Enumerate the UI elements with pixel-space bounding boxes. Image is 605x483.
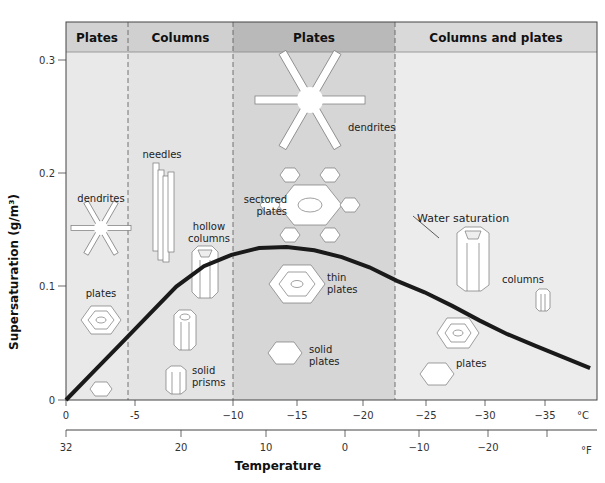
x-tick-label-f: −20 [477,442,498,453]
x-tick-label-f: 32 [60,442,73,453]
label-solid: solid [192,365,215,376]
x-tick-label-c: −20 [352,410,373,421]
hollow-column-icon [457,227,489,291]
label-prisms: prisms [192,377,225,388]
y-axis: 00.10.20.3 [39,55,66,406]
needle-icon [153,163,174,262]
column-icon [174,310,196,350]
x-tick-label-c: −25 [415,410,436,421]
label-columns-right: columns [502,274,544,285]
region-header-label: Columns [152,31,210,45]
label-hollow: hollow [193,221,225,232]
snow-crystal-diagram: PlatesColumnsPlatesColumns and plates 00… [0,0,605,483]
region-header-label: Plates [293,31,335,45]
x-tick-label-c: −15 [286,410,307,421]
x-tick-label-f: 10 [260,442,273,453]
label-thin: thin [327,272,346,283]
label-solid-plates-1: solid [309,344,332,355]
x-tick-label-f: −10 [408,442,429,453]
label-plates: plates [86,288,117,299]
y-tick-label: 0.3 [39,55,55,66]
label-sectored-plates: plates [256,206,287,217]
curve-label: Water saturation [417,212,509,225]
celsius-unit: °C [577,410,589,421]
label-columns: columns [188,233,230,244]
x-tick-label-c: −30 [474,410,495,421]
y-tick-label: 0.1 [39,281,55,292]
x-tick-label-c: −35 [534,410,555,421]
y-tick-label: 0 [49,395,55,406]
region-header-label: Plates [76,31,118,45]
x-tick-label-c: -5 [130,410,140,421]
solid-prism-icon [166,366,186,394]
fahrenheit-unit: °F [581,445,592,456]
region-header-label: Columns and plates [429,31,562,45]
x-axis-title: Temperature [235,459,321,473]
x-axis-fahrenheit: 3220100−10−20 [60,430,547,453]
x-axis-celsius: 0-5−10−15−20−25−30−35 [63,400,556,421]
label-solid-plates-2: plates [309,356,340,367]
x-tick-label-c: −10 [222,410,243,421]
y-axis-title: Supersaturation (g/m³) [7,194,21,350]
y-tick-label: 0.2 [39,168,55,179]
label-thin-plates: plates [327,284,358,295]
x-tick-label-f: 0 [342,442,348,453]
label-dendrites-mid: dendrites [348,122,395,133]
label-needles: needles [142,149,181,160]
label-sectored: sectored [244,194,287,205]
label-plates-right: plates [456,358,487,369]
x-tick-label-c: 0 [63,410,69,421]
solid-plate-icon [90,382,112,396]
column-icon [536,289,550,311]
label-dendrites: dendrites [77,193,124,204]
x-tick-label-f: 20 [175,442,188,453]
